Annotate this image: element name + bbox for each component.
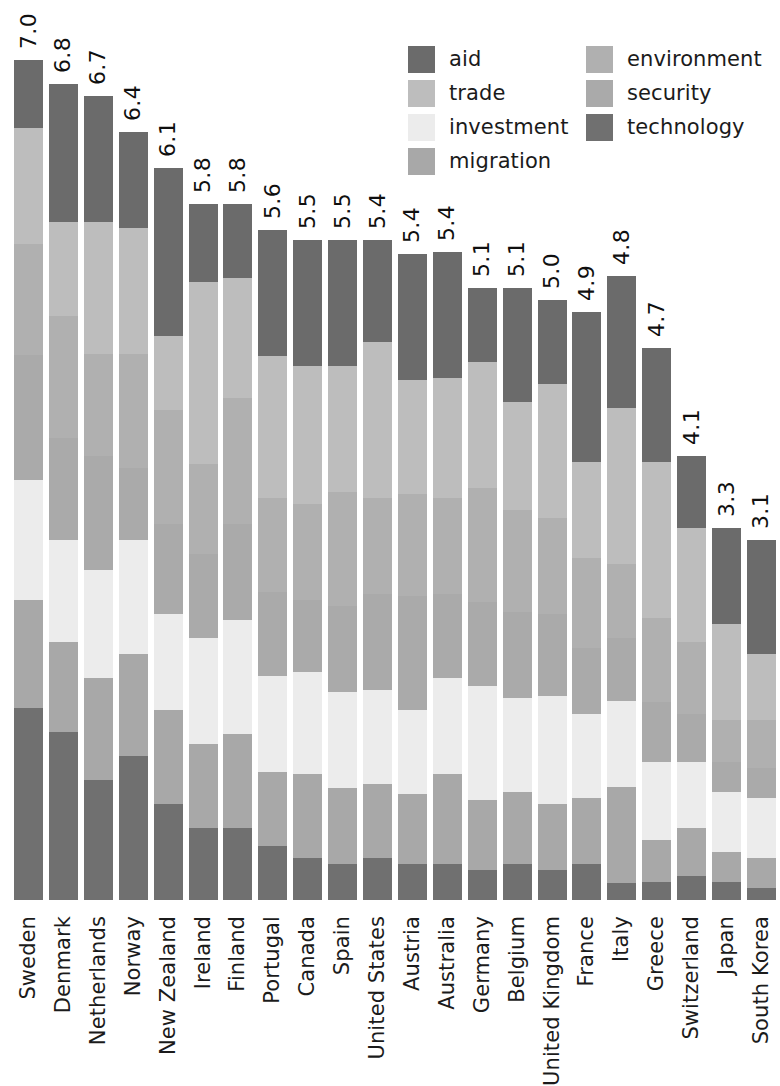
bar-segment-migration[interactable] (398, 794, 427, 864)
bar-segment-trade[interactable] (712, 624, 741, 720)
bar-segment-aid[interactable] (154, 168, 183, 336)
bar-segment-aid[interactable] (363, 240, 392, 342)
bar-segment-security[interactable] (642, 702, 671, 762)
bar-segment-environment[interactable] (468, 488, 497, 602)
bar-segment-security[interactable] (433, 594, 462, 678)
bar-column[interactable]: 6.8 (49, 84, 78, 900)
bar-segment-aid[interactable] (468, 288, 497, 362)
bar-segment-technology[interactable] (677, 876, 706, 900)
bar-segment-trade[interactable] (49, 222, 78, 316)
bar-segment-security[interactable] (328, 606, 357, 692)
bar-segment-environment[interactable] (223, 398, 252, 524)
bar-segment-technology[interactable] (712, 882, 741, 900)
bar-column[interactable]: 6.4 (119, 132, 148, 900)
bar-segment-investment[interactable] (363, 690, 392, 784)
bar-segment-investment[interactable] (503, 698, 532, 792)
bar-segment-environment[interactable] (328, 492, 357, 606)
bar-segment-security[interactable] (119, 468, 148, 540)
bar-segment-migration[interactable] (293, 774, 322, 858)
bar-segment-trade[interactable] (328, 366, 357, 492)
bar-segment-migration[interactable] (154, 710, 183, 804)
bar-segment-security[interactable] (503, 612, 532, 698)
bar-segment-security[interactable] (538, 614, 567, 696)
bar-segment-technology[interactable] (223, 828, 252, 900)
bar-segment-environment[interactable] (363, 498, 392, 594)
bar-segment-trade[interactable] (468, 362, 497, 488)
bar-segment-technology[interactable] (503, 864, 532, 900)
bar-segment-trade[interactable] (538, 384, 567, 518)
bar-segment-security[interactable] (712, 762, 741, 792)
bar-segment-aid[interactable] (328, 240, 357, 366)
bar-segment-trade[interactable] (363, 342, 392, 498)
bar-segment-trade[interactable] (677, 528, 706, 642)
bar-segment-security[interactable] (572, 648, 601, 714)
bar-segment-investment[interactable] (433, 678, 462, 774)
bar-segment-security[interactable] (677, 714, 706, 762)
bar-column[interactable]: 5.5 (293, 240, 322, 900)
bar-column[interactable]: 4.1 (677, 456, 706, 900)
bar-segment-environment[interactable] (712, 720, 741, 762)
bar-segment-migration[interactable] (572, 798, 601, 864)
bar-column[interactable]: 5.8 (223, 204, 252, 900)
bar-segment-aid[interactable] (747, 540, 776, 654)
bar-column[interactable]: 6.7 (84, 96, 113, 900)
bar-segment-security[interactable] (468, 602, 497, 686)
bar-column[interactable]: 5.4 (433, 252, 462, 900)
bar-segment-trade[interactable] (398, 380, 427, 494)
bar-segment-aid[interactable] (433, 252, 462, 378)
bar-column[interactable]: 5.8 (189, 204, 218, 900)
bar-segment-security[interactable] (223, 524, 252, 620)
bar-column[interactable]: 5.1 (468, 288, 497, 900)
bar-segment-trade[interactable] (14, 128, 43, 243)
bar-segment-security[interactable] (258, 592, 287, 676)
bar-segment-environment[interactable] (119, 354, 148, 468)
bar-segment-aid[interactable] (223, 204, 252, 278)
bar-segment-environment[interactable] (607, 564, 636, 638)
bar-segment-migration[interactable] (503, 792, 532, 864)
bar-segment-investment[interactable] (677, 762, 706, 828)
bar-segment-technology[interactable] (747, 888, 776, 900)
bar-segment-aid[interactable] (538, 300, 567, 384)
bar-column[interactable]: 5.6 (258, 230, 287, 900)
bar-segment-trade[interactable] (747, 654, 776, 720)
bar-segment-migration[interactable] (433, 774, 462, 864)
bar-segment-aid[interactable] (712, 528, 741, 624)
bar-segment-aid[interactable] (572, 312, 601, 462)
bar-column[interactable]: 7.0 (14, 60, 43, 900)
bar-segment-investment[interactable] (538, 696, 567, 804)
bar-segment-security[interactable] (363, 594, 392, 690)
bar-segment-environment[interactable] (433, 498, 462, 594)
bar-segment-technology[interactable] (119, 756, 148, 900)
bar-segment-environment[interactable] (14, 244, 43, 356)
bar-segment-technology[interactable] (84, 780, 113, 900)
bar-segment-investment[interactable] (712, 792, 741, 852)
bar-segment-migration[interactable] (223, 734, 252, 828)
bar-segment-migration[interactable] (607, 787, 636, 883)
bar-segment-migration[interactable] (747, 858, 776, 888)
bar-segment-security[interactable] (14, 355, 43, 480)
bar-segment-security[interactable] (49, 438, 78, 540)
bar-segment-migration[interactable] (328, 788, 357, 864)
bar-segment-technology[interactable] (49, 732, 78, 900)
bar-segment-trade[interactable] (293, 366, 322, 504)
bar-segment-environment[interactable] (642, 618, 671, 702)
bar-segment-security[interactable] (84, 456, 113, 570)
bar-segment-technology[interactable] (363, 858, 392, 900)
bar-segment-environment[interactable] (677, 642, 706, 714)
bar-segment-aid[interactable] (258, 230, 287, 356)
bar-segment-technology[interactable] (258, 846, 287, 900)
bar-segment-investment[interactable] (49, 540, 78, 642)
bar-segment-investment[interactable] (84, 570, 113, 678)
bar-segment-migration[interactable] (189, 744, 218, 828)
bar-segment-trade[interactable] (607, 408, 636, 564)
bar-segment-migration[interactable] (712, 852, 741, 882)
bar-column[interactable]: 3.1 (747, 540, 776, 900)
bar-segment-security[interactable] (293, 600, 322, 672)
bar-segment-technology[interactable] (538, 870, 567, 900)
bar-segment-environment[interactable] (747, 720, 776, 768)
bar-segment-trade[interactable] (503, 402, 532, 510)
bar-segment-technology[interactable] (14, 708, 43, 900)
bar-segment-technology[interactable] (433, 864, 462, 900)
bar-segment-investment[interactable] (223, 620, 252, 734)
bar-segment-environment[interactable] (572, 558, 601, 648)
